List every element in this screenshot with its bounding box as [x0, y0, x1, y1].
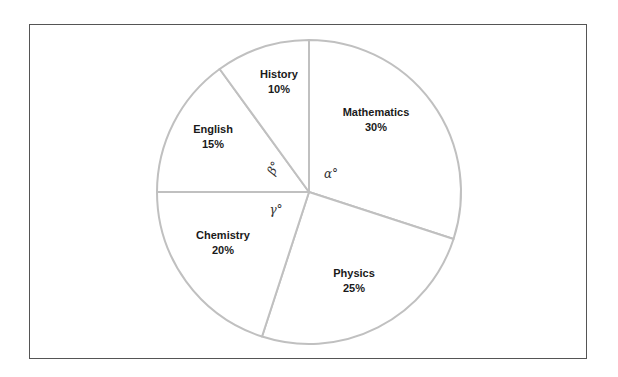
slice-label-history: History [260, 68, 299, 80]
slice-label-mathematics: Mathematics [343, 106, 410, 118]
angle-label-alpha: α° [324, 167, 338, 181]
slice-label-english: English [193, 123, 233, 135]
slice-label-physics: Physics [333, 267, 375, 279]
slice-value-physics: 25% [343, 282, 365, 294]
slice-value-mathematics: 30% [365, 121, 387, 133]
slice-label-chemistry: Chemistry [196, 229, 251, 241]
slice-value-history: 10% [268, 83, 290, 95]
slice-value-english: 15% [202, 138, 224, 150]
slice-value-chemistry: 20% [212, 244, 234, 256]
pie-slices [157, 40, 461, 344]
angle-label-gamma: γ° [269, 203, 282, 217]
pie-chart: Mathematics 30% Physics 25% Chemistry 20… [0, 0, 618, 377]
